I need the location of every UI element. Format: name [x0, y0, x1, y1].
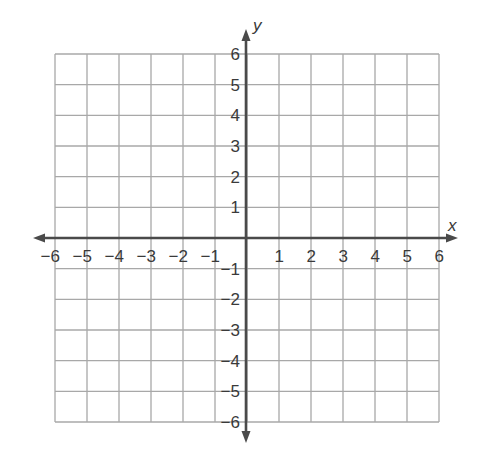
y-tick-label: −6 [221, 413, 240, 432]
y-tick-label: −5 [221, 382, 240, 401]
y-tick-label: −1 [221, 260, 240, 279]
x-tick-labels: −6−5−4−3−2−1123456 [41, 247, 444, 266]
y-tick-label: 4 [231, 106, 240, 125]
axes [33, 29, 458, 443]
x-tick-label: 2 [307, 247, 316, 266]
x-axis-left-arrow-icon [33, 234, 45, 243]
y-tick-label: −4 [221, 352, 240, 371]
coordinate-plane: −6−5−4−3−2−1123456 −6−5−4−3−2−1123456 y … [0, 0, 486, 464]
y-tick-label: 5 [231, 76, 240, 95]
x-tick-label: −3 [137, 247, 156, 266]
x-tick-label: −4 [105, 247, 124, 266]
y-axis-top-arrow-icon [242, 29, 251, 41]
y-tick-label: 6 [231, 45, 240, 64]
y-tick-label: −2 [221, 290, 240, 309]
y-axis-bottom-arrow-icon [242, 431, 251, 443]
x-tick-label: −1 [201, 247, 220, 266]
x-tick-label: 6 [435, 247, 444, 266]
x-tick-label: 5 [403, 247, 412, 266]
y-tick-label: −3 [221, 321, 240, 340]
x-tick-label: 4 [371, 247, 380, 266]
x-axis-label: x [447, 216, 457, 235]
y-tick-label: 2 [231, 168, 240, 187]
x-tick-label: 1 [275, 247, 284, 266]
x-tick-label: −6 [41, 247, 60, 266]
x-tick-label: 3 [339, 247, 348, 266]
y-tick-label: 1 [231, 198, 240, 217]
x-tick-label: −2 [169, 247, 188, 266]
x-tick-label: −5 [73, 247, 92, 266]
y-tick-label: 3 [231, 137, 240, 156]
y-axis-label: y [252, 16, 263, 35]
